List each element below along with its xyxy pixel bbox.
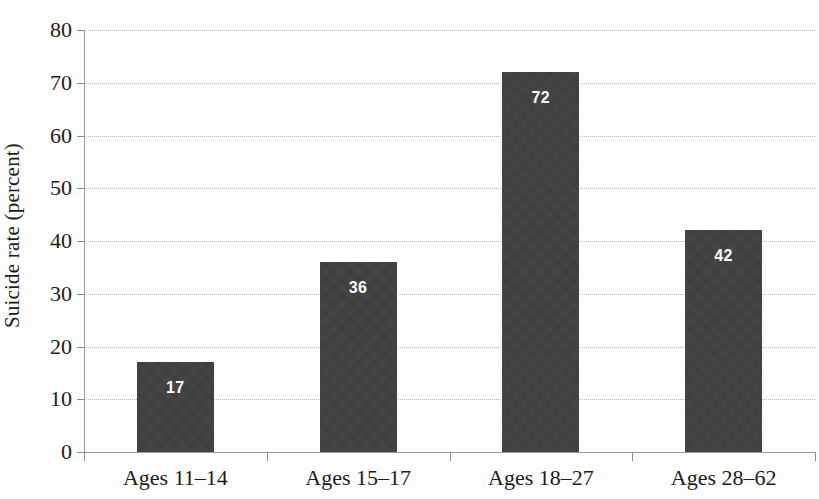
gridline <box>84 83 815 84</box>
y-axis-tick-mark <box>77 399 85 400</box>
bar-value-label: 72 <box>502 90 579 106</box>
gridline <box>84 30 815 31</box>
bar-chart: Suicide rate (percent) 01020304050607080… <box>0 0 819 499</box>
y-axis-tick-mark <box>77 136 85 137</box>
y-axis-tick-label: 80 <box>50 19 72 41</box>
y-axis-title: Suicide rate (percent) <box>0 0 26 470</box>
bar: 36 <box>320 262 397 452</box>
y-axis-tick-label: 10 <box>50 388 72 410</box>
y-axis-tick-mark <box>77 347 85 348</box>
x-axis-category-label: Ages 11–14 <box>84 466 267 489</box>
y-axis-title-text: Suicide rate (percent) <box>1 142 26 327</box>
y-axis-tick-mark <box>77 294 85 295</box>
x-axis-tick-mark <box>267 452 268 461</box>
y-axis-tick-label: 70 <box>50 72 72 94</box>
y-axis-tick-labels: 01020304050607080 <box>26 0 78 499</box>
y-axis-tick-label: 20 <box>50 336 72 358</box>
y-axis-tick-mark <box>77 241 85 242</box>
x-axis-tick-mark <box>450 452 451 461</box>
y-axis-tick-label: 60 <box>50 125 72 147</box>
y-axis-tick-mark <box>77 83 85 84</box>
y-axis-tick-label: 30 <box>50 283 72 305</box>
gridline <box>84 188 815 189</box>
x-axis-category-label: Ages 15–17 <box>267 466 450 489</box>
bar-value-label: 17 <box>137 380 214 396</box>
y-axis-tick-label: 50 <box>50 177 72 199</box>
x-axis-tick-mark <box>632 452 633 461</box>
bar: 42 <box>685 230 762 452</box>
plot-area: 17367242 <box>84 30 815 452</box>
y-axis-tick-label: 40 <box>50 230 72 252</box>
x-axis-category-label: Ages 28–62 <box>632 466 815 489</box>
bar-value-label: 42 <box>685 248 762 264</box>
y-axis-tick-label: 0 <box>61 441 72 463</box>
y-axis-tick-mark <box>77 30 85 31</box>
bar: 17 <box>137 362 214 452</box>
x-axis-tick-mark <box>84 452 85 461</box>
bar: 72 <box>502 72 579 452</box>
y-axis-tick-mark <box>77 188 85 189</box>
x-axis-category-label: Ages 18–27 <box>450 466 633 489</box>
x-axis-tick-mark <box>815 452 816 461</box>
gridline <box>84 136 815 137</box>
bar-value-label: 36 <box>320 280 397 296</box>
